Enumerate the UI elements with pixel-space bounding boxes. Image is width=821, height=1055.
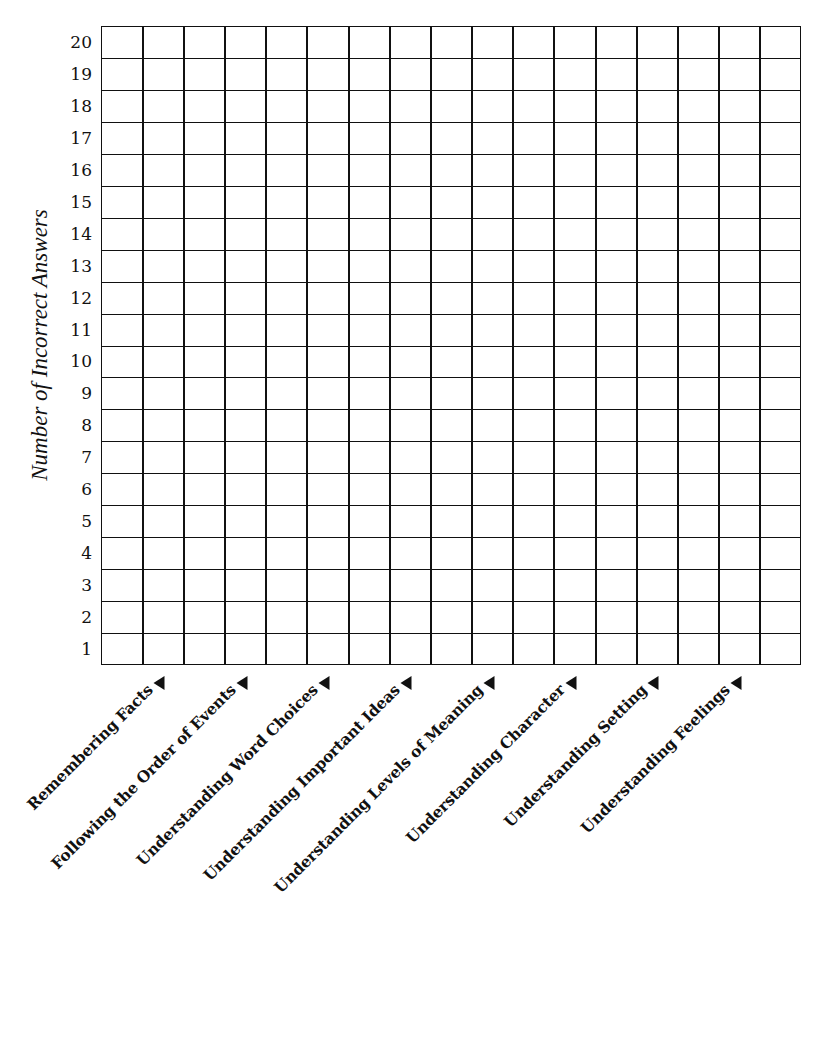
grid-row-line xyxy=(102,250,800,251)
y-tick-label: 11 xyxy=(52,320,92,340)
grid-row-line xyxy=(102,601,800,602)
y-tick-label: 19 xyxy=(52,64,92,84)
y-tick-label: 6 xyxy=(52,479,92,499)
y-tick-label: 15 xyxy=(52,192,92,212)
grid-row-line xyxy=(102,473,800,474)
y-tick-label: 13 xyxy=(52,256,92,276)
grid-row-line xyxy=(102,505,800,506)
y-tick-label: 4 xyxy=(52,543,92,563)
label-pointer-arrow-icon xyxy=(730,676,741,690)
grid-row-line xyxy=(102,441,800,442)
x-category-label: Understanding Character xyxy=(402,680,569,847)
y-tick-label: 17 xyxy=(52,128,92,148)
y-tick-label: 1 xyxy=(52,639,92,659)
x-category-label: Understanding Feelings xyxy=(576,680,733,837)
grid-row-line xyxy=(102,186,800,187)
label-pointer-arrow-icon xyxy=(483,676,494,690)
y-tick-label: 16 xyxy=(52,160,92,180)
y-tick-label: 5 xyxy=(52,511,92,531)
label-pointer-arrow-icon xyxy=(401,676,412,690)
label-pointer-arrow-icon xyxy=(236,676,247,690)
y-tick-label: 10 xyxy=(52,351,92,371)
y-tick-label: 2 xyxy=(52,607,92,627)
label-pointer-arrow-icon xyxy=(648,676,659,690)
y-tick-label: 9 xyxy=(52,383,92,403)
y-axis-title: Number of Incorrect Answers xyxy=(27,209,53,481)
grid-row-line xyxy=(102,409,800,410)
y-tick-label: 20 xyxy=(52,32,92,52)
y-tick-label: 3 xyxy=(52,575,92,595)
y-tick-label: 18 xyxy=(52,96,92,116)
x-category-label: Understanding Setting xyxy=(500,680,651,831)
grid-row-line xyxy=(102,377,800,378)
y-tick-label: 14 xyxy=(52,224,92,244)
label-pointer-arrow-icon xyxy=(318,676,329,690)
label-pointer-arrow-icon xyxy=(154,676,165,690)
chart-grid xyxy=(101,26,801,665)
grid-row-line xyxy=(102,218,800,219)
label-pointer-arrow-icon xyxy=(565,676,576,690)
grid-row-line xyxy=(102,346,800,347)
y-tick-label: 12 xyxy=(52,288,92,308)
grid-row-line xyxy=(102,314,800,315)
grid-row-line xyxy=(102,58,800,59)
grid-row-line xyxy=(102,90,800,91)
grid-row-line xyxy=(102,569,800,570)
grid-row-line xyxy=(102,154,800,155)
y-tick-label: 7 xyxy=(52,447,92,467)
grid-row-line xyxy=(102,537,800,538)
grid-row-line xyxy=(102,122,800,123)
grid-row-line xyxy=(102,633,800,634)
grid-row-line xyxy=(102,282,800,283)
y-tick-label: 8 xyxy=(52,415,92,435)
x-category-label: Understanding Word Choices xyxy=(132,680,321,869)
